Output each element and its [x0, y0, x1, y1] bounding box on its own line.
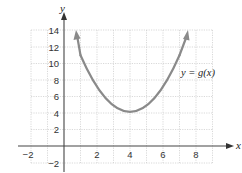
y-tick-neg2: −2 — [48, 158, 59, 169]
y-tick-4: 4 — [54, 108, 59, 119]
y-tick-labels: 14 12 10 8 6 4 2 −2 — [48, 25, 59, 169]
y-tick-12: 12 — [48, 42, 59, 53]
y-tick-6: 6 — [54, 91, 59, 102]
y-tick-2: 2 — [54, 124, 59, 135]
x-axis-label: x — [235, 139, 241, 151]
curve-right-arrow-icon — [183, 30, 190, 41]
x-tick-4: 4 — [127, 149, 132, 160]
x-tick-6: 6 — [160, 149, 165, 160]
y-tick-14: 14 — [48, 25, 59, 36]
y-tick-10: 10 — [48, 58, 59, 69]
x-tick-8: 8 — [193, 149, 198, 160]
x-axis-arrow-icon — [226, 143, 234, 149]
y-tick-8: 8 — [54, 75, 59, 86]
curve-label: y = g(x) — [180, 67, 215, 79]
y-axis-label: y — [59, 2, 65, 14]
graph: x y 14 12 10 8 6 4 2 −2 −2 2 4 6 8 y = g… — [0, 0, 242, 173]
curve-left-arrow-icon — [74, 30, 81, 40]
x-tick-2: 2 — [94, 149, 99, 160]
x-tick-neg2: −2 — [23, 149, 34, 160]
